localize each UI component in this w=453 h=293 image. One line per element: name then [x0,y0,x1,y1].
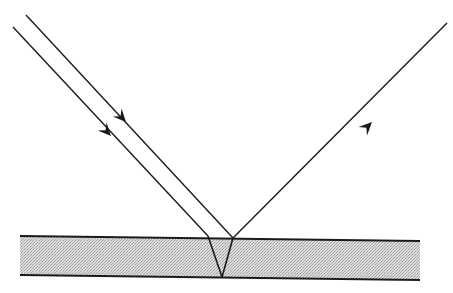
incident-ray-outer [26,15,233,238]
incident-ray-inner [13,27,208,236]
arrow-down-right-icon [98,122,116,140]
thin-film-diagram [0,0,453,293]
arrow-up-right-icon [359,118,377,136]
reflected-ray [233,23,447,238]
